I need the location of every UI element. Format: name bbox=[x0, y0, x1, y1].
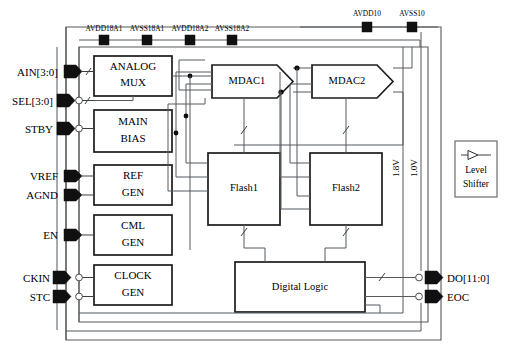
pin-agnd: AGND bbox=[26, 189, 94, 201]
cml-gen-label-line1: CML bbox=[121, 219, 145, 231]
mdac2-label: MDAC2 bbox=[329, 75, 366, 86]
ref-gen-label-line1: REF bbox=[123, 169, 143, 181]
legend-label-line2: Shifter bbox=[463, 179, 490, 189]
rail-pad-avss18a1: AVSS18A1 bbox=[130, 24, 165, 45]
block-diagram-canvas: AVDD18A1 AVSS18A1 AVDD18A2 AVSS18A2 AVDD… bbox=[0, 0, 507, 351]
wire-flash1-to-digital bbox=[244, 225, 265, 262]
rail-label-avdd18a1: AVDD18A1 bbox=[86, 24, 123, 33]
flash2-label: Flash2 bbox=[332, 182, 360, 193]
wire-flash1-fb-b bbox=[176, 72, 212, 177]
ref-gen-label-line2: GEN bbox=[122, 186, 145, 198]
pin-stc: STC bbox=[30, 290, 94, 303]
mdac1-label: MDAC1 bbox=[229, 75, 266, 86]
pin-label-ckin: CKIN bbox=[23, 272, 50, 284]
rail-label-avss18a2: AVSS18A2 bbox=[215, 24, 250, 33]
clock-gen-label-line2: GEN bbox=[122, 286, 145, 298]
pin-label-vref: VREF bbox=[30, 170, 58, 182]
cml-gen-label-line2: GEN bbox=[122, 236, 145, 248]
rail-pad-avdd18a2: AVDD18A2 bbox=[172, 24, 209, 45]
pin-ain: AIN[3:0] bbox=[17, 65, 94, 78]
pin-ckin: CKIN bbox=[23, 271, 94, 284]
pin-eoc: EOC bbox=[416, 290, 469, 303]
junction-flash1-fb-b bbox=[174, 131, 179, 136]
pin-en: EN bbox=[43, 229, 94, 241]
rail-label-avss18a1: AVSS18A1 bbox=[130, 24, 165, 33]
pin-label-do: DO[11:0] bbox=[447, 272, 489, 284]
pin-label-agnd: AGND bbox=[26, 189, 58, 201]
wire-mdac1-res-branch bbox=[281, 92, 310, 209]
digital-logic-label: Digital Logic bbox=[272, 281, 329, 292]
pin-label-stby: STBY bbox=[25, 123, 53, 135]
rail-label-avss10: AVSS10 bbox=[399, 9, 425, 18]
pin-label-stc: STC bbox=[30, 291, 50, 303]
wire-flash2-fb-a bbox=[290, 84, 312, 163]
legend-label-line1: Level bbox=[465, 165, 487, 175]
pin-label-eoc: EOC bbox=[447, 291, 469, 303]
rail-pad-avss18a2: AVSS18A2 bbox=[215, 24, 250, 45]
main-bias-label-line1: MAIN bbox=[118, 115, 147, 127]
flash1-label: Flash1 bbox=[230, 182, 258, 193]
pin-label-en: EN bbox=[43, 229, 58, 241]
analog-mux-label-line1: ANALOG bbox=[110, 60, 156, 72]
pin-label-sel: SEL[3:0] bbox=[12, 95, 53, 107]
wire-flash2-to-digital bbox=[325, 225, 346, 262]
wire-clock-to-digital bbox=[365, 305, 380, 313]
pin-stby: STBY bbox=[25, 122, 94, 135]
junction-flash1-fb-a bbox=[184, 114, 189, 119]
rail-pad-avdd18a1: AVDD18A1 bbox=[86, 24, 123, 45]
wire-mdac2-out-lower bbox=[234, 92, 403, 145]
voltage-label-1v0: 1.0V bbox=[409, 159, 419, 177]
voltage-label-1v8: 1.8V bbox=[391, 159, 401, 177]
rail-label-avdd18a2: AVDD18A2 bbox=[172, 24, 209, 33]
pin-vref: VREF bbox=[30, 170, 94, 182]
diagram-svg: AVDD18A1 AVSS18A1 AVDD18A2 AVSS18A2 AVDD… bbox=[0, 0, 507, 351]
rail-label-avdd10: AVDD10 bbox=[353, 9, 381, 18]
main-bias-label-line2: BIAS bbox=[120, 132, 145, 144]
pin-do: DO[11:0] bbox=[416, 271, 490, 284]
clock-gen-label-line1: CLOCK bbox=[114, 269, 151, 281]
rail-pad-avdd10: AVDD10 bbox=[353, 9, 381, 32]
analog-mux-label-line2: MUX bbox=[120, 76, 146, 88]
rail-pad-avss10: AVSS10 bbox=[399, 9, 425, 32]
pin-label-ain: AIN[3:0] bbox=[17, 66, 58, 78]
